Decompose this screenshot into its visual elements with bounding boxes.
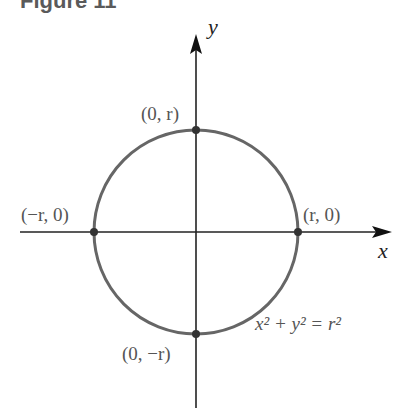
x-axis-label: x (377, 238, 388, 263)
figure-container: Figure 11 y x (0, r) (−r, 0) (r, 0) (0, … (0, 0, 411, 408)
circle-equation: x² + y² = r² (254, 313, 341, 334)
label-bottom-point: (0, −r) (122, 343, 171, 365)
circle-diagram: y x (0, r) (−r, 0) (r, 0) (0, −r) x² + y… (0, 0, 411, 408)
figure-title: Figure 11 (20, 0, 117, 14)
point-top (192, 126, 200, 134)
point-left (90, 228, 98, 236)
label-right-point: (r, 0) (303, 204, 340, 226)
y-axis-label: y (206, 14, 218, 39)
point-right (294, 228, 302, 236)
label-top-point: (0, r) (141, 103, 179, 125)
point-bottom (192, 330, 200, 338)
label-left-point: (−r, 0) (21, 204, 69, 226)
